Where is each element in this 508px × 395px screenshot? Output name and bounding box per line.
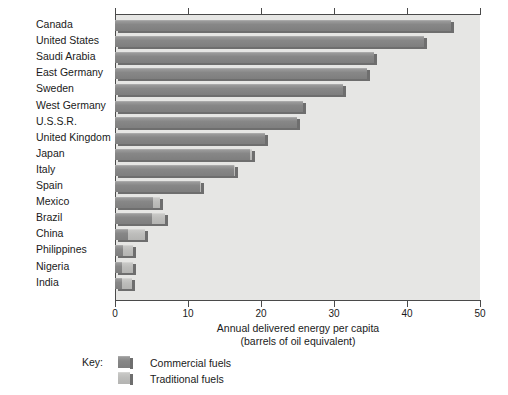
- bar-bottom-shadow: [118, 273, 136, 275]
- bar-segment-commercial: [115, 149, 250, 160]
- axis-top-line: [115, 14, 481, 15]
- bar-bottom-shadow: [118, 208, 163, 210]
- bar-bottom-shadow: [118, 47, 427, 49]
- bar-bottom-shadow: [118, 79, 370, 81]
- category-label: Japan: [6, 147, 112, 159]
- bar-bottom-shadow: [118, 256, 136, 258]
- legend-swatch-traditional: [118, 372, 130, 384]
- x-tick-label: 30: [319, 308, 349, 320]
- category-label-text: Philippines: [6, 243, 87, 255]
- category-label-text: Brazil: [6, 211, 62, 223]
- category-label-text: Canada: [6, 18, 73, 30]
- x-tick-top: [407, 8, 408, 14]
- category-label-text: Saudi Arabia: [6, 50, 96, 62]
- legend-label: Commercial fuels: [150, 355, 231, 371]
- legend-swatch-commercial: [118, 356, 130, 368]
- category-label-text: Nigeria: [6, 260, 69, 272]
- bar-segment-commercial: [115, 245, 123, 256]
- bar-segment-traditional: [122, 262, 132, 273]
- category-label-text: United Kingdom: [6, 131, 111, 143]
- bar-bottom-shadow: [118, 128, 300, 130]
- category-label: Saudi Arabia: [6, 50, 112, 62]
- bar-segment-traditional: [152, 213, 166, 224]
- x-tick-top: [188, 8, 189, 14]
- category-label: West Germany: [6, 99, 112, 111]
- chart-figure: 01020304050 CanadaUnited StatesSaudi Ara…: [0, 0, 508, 395]
- bar-segment-commercial: [115, 68, 367, 79]
- x-tick-label: 50: [465, 308, 495, 320]
- bar-segment-commercial: [115, 101, 303, 112]
- x-tick-bottom: [407, 301, 408, 307]
- bar-segment-traditional: [128, 229, 145, 240]
- bar-bottom-shadow: [118, 289, 135, 291]
- category-label: Canada: [6, 18, 112, 30]
- bar-bottom-shadow: [118, 224, 168, 226]
- bar-segment-traditional: [122, 278, 132, 289]
- x-axis-title: Annual delivered energy per capita (barr…: [115, 322, 481, 348]
- bar-segment-traditional: [123, 245, 133, 256]
- x-tick-label: 0: [100, 308, 130, 320]
- x-tick-top: [480, 8, 481, 14]
- bar-segment-commercial: [115, 181, 200, 192]
- x-tick-bottom: [261, 301, 262, 307]
- category-label: Spain: [6, 179, 112, 191]
- y-axis-category-labels: CanadaUnited StatesSaudi ArabiaEast Germ…: [0, 0, 112, 300]
- x-tick-top: [334, 8, 335, 14]
- bar-bottom-shadow: [118, 63, 377, 65]
- category-label: Mexico: [6, 195, 112, 207]
- x-tick-bottom: [115, 301, 116, 307]
- x-tick-bottom: [188, 301, 189, 307]
- category-label: Philippines: [6, 243, 112, 255]
- category-label: China: [6, 227, 112, 239]
- bar-bottom-shadow: [118, 112, 306, 114]
- axis-bottom-line: [115, 300, 481, 301]
- bar-segment-commercial: [115, 133, 265, 144]
- category-label: East Germany: [6, 66, 112, 78]
- legend-swatch-shadow: [130, 374, 133, 385]
- bar-segment-commercial: [115, 229, 128, 240]
- bar-segment-commercial: [115, 36, 424, 47]
- category-label-text: East Germany: [6, 66, 103, 78]
- category-label-text: United States: [6, 34, 99, 46]
- category-label: Sweden: [6, 82, 112, 94]
- legend-key-label: Key:: [82, 354, 103, 370]
- x-tick-bottom: [334, 301, 335, 307]
- bar-bottom-shadow: [118, 240, 148, 242]
- bar-bottom-shadow: [118, 31, 454, 33]
- bar-segment-traditional: [153, 197, 160, 208]
- bar-segment-commercial: [115, 262, 122, 273]
- legend-swatch-shadow: [130, 358, 133, 369]
- x-tick-label: 40: [392, 308, 422, 320]
- x-axis-title-line2: (barrels of oil equivalent): [115, 335, 481, 348]
- bar-segment-commercial: [115, 84, 343, 95]
- category-label-text: Sweden: [6, 82, 74, 94]
- category-label-text: Japan: [6, 147, 65, 159]
- category-label-text: India: [6, 276, 59, 288]
- bar-bottom-shadow: [118, 176, 238, 178]
- bar-segment-commercial: [115, 117, 297, 128]
- x-axis-title-line1: Annual delivered energy per capita: [115, 322, 481, 335]
- category-label: United States: [6, 34, 112, 46]
- bar-segment-commercial: [115, 20, 451, 31]
- x-tick-label: 20: [246, 308, 276, 320]
- bar-bottom-shadow: [118, 144, 268, 146]
- x-tick-top: [261, 8, 262, 14]
- bar-segment-commercial: [115, 197, 153, 208]
- x-tick-top: [115, 8, 116, 14]
- category-label: Nigeria: [6, 260, 112, 272]
- category-label-text: Mexico: [6, 195, 69, 207]
- x-tick-bottom: [480, 301, 481, 307]
- category-label: United Kingdom: [6, 131, 112, 143]
- bar-segment-commercial: [115, 52, 374, 63]
- bar-bottom-shadow: [118, 95, 346, 97]
- legend-label: Traditional fuels: [150, 371, 224, 387]
- category-label: Italy: [6, 163, 112, 175]
- category-label-text: Italy: [6, 163, 55, 175]
- category-label: Brazil: [6, 211, 112, 223]
- x-tick-label: 10: [173, 308, 203, 320]
- category-label-text: Spain: [6, 179, 63, 191]
- bar-segment-commercial: [115, 213, 152, 224]
- category-label: U.S.S.R.: [6, 115, 112, 127]
- category-label-text: China: [6, 227, 63, 239]
- category-label-text: West Germany: [6, 99, 106, 111]
